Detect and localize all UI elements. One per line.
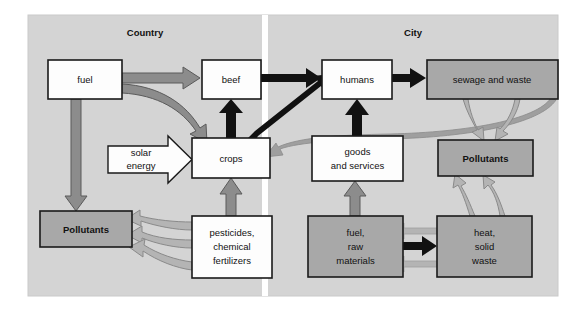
node-sewage-and-waste-label: sewage and waste — [453, 74, 532, 85]
node-pesticides-label-line2: chemical — [213, 241, 251, 252]
node-solar-energy-label-line2: energy — [126, 160, 155, 171]
node-humans[interactable]: humans — [322, 60, 392, 99]
node-pollutants-city[interactable]: Pollutants — [438, 140, 533, 176]
node-humans-label: humans — [340, 74, 374, 85]
node-pollutants-country-label: Pollutants — [63, 224, 109, 235]
node-fuel[interactable]: fuel — [48, 60, 122, 99]
node-goods-and-services[interactable]: goods and services — [312, 136, 403, 181]
node-heat-solid-waste-label-line3: waste — [471, 255, 497, 266]
node-heat-solid-waste-label-line2: solid — [475, 241, 495, 252]
node-pesticides[interactable]: pesticides, chemical fertilizers — [192, 216, 272, 278]
node-crops-label: crops — [219, 153, 242, 164]
node-pollutants-city-label: Pollutants — [463, 153, 509, 164]
section-title-city: City — [404, 27, 423, 38]
node-pollutants-country[interactable]: Pollutants — [40, 211, 132, 247]
node-fuel-raw-materials[interactable]: fuel, raw materials — [308, 216, 403, 277]
node-fuel-raw-materials-label-line2: raw — [348, 241, 363, 252]
node-beef-label: beef — [222, 74, 241, 85]
node-solar-energy-label-line1: solar — [131, 147, 152, 158]
node-goods-and-services-label-line1: goods — [345, 146, 371, 157]
diagram-stage: Country City fuel beef humans sewage and… — [0, 0, 579, 314]
node-heat-solid-waste[interactable]: heat, solid waste — [437, 216, 532, 277]
node-crops[interactable]: crops — [192, 138, 270, 178]
node-heat-solid-waste-label-line1: heat, — [474, 227, 495, 238]
node-pesticides-label-line3: fertilizers — [213, 255, 251, 266]
node-fuel-raw-materials-label-line3: materials — [336, 255, 375, 266]
node-beef[interactable]: beef — [202, 60, 261, 99]
node-fuel-raw-materials-label-line1: fuel, — [347, 227, 365, 238]
node-fuel-label: fuel — [77, 74, 92, 85]
flow-diagram-svg: Country City fuel beef humans sewage and… — [0, 0, 579, 314]
node-sewage-and-waste[interactable]: sewage and waste — [427, 60, 558, 99]
node-goods-and-services-label-line2: and services — [331, 160, 385, 171]
section-title-country: Country — [127, 27, 164, 38]
node-pesticides-label-line1: pesticides, — [210, 227, 255, 238]
